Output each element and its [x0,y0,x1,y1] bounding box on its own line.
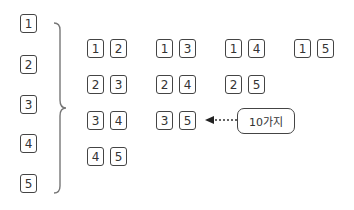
pair-1-2: 1 2 [87,39,130,58]
pair-first: 1 [225,39,242,58]
pair-4-5: 4 5 [87,147,130,166]
pair-1-4: 1 4 [225,39,268,58]
pair-second: 2 [110,39,127,58]
pair-first: 2 [225,75,242,94]
pair-2-3: 2 3 [87,75,130,94]
pair-second: 5 [317,39,334,58]
pair-1-5: 1 5 [294,39,337,58]
pair-second: 4 [179,75,196,94]
pair-second: 5 [248,75,265,94]
single-item-5: 5 [20,174,37,193]
pair-first: 4 [87,147,104,166]
single-item-3: 3 [20,95,37,114]
pair-first: 2 [156,75,173,94]
pair-first: 3 [87,111,104,130]
pair-1-3: 1 3 [156,39,199,58]
pair-second: 5 [110,147,127,166]
single-item-2: 2 [20,55,37,74]
pair-2-4: 2 4 [156,75,199,94]
pair-second: 5 [179,111,196,130]
pair-3-4: 3 4 [87,111,130,130]
pair-3-5: 3 5 [156,111,199,130]
single-item-4: 4 [20,134,37,153]
pair-first: 1 [294,39,311,58]
pair-second: 3 [179,39,196,58]
pair-second: 3 [110,75,127,94]
pair-first: 3 [156,111,173,130]
pair-2-5: 2 5 [225,75,268,94]
dotted-arrow-left-icon [205,115,237,125]
pair-second: 4 [110,111,127,130]
pair-first: 1 [156,39,173,58]
pair-second: 4 [248,39,265,58]
pair-first: 2 [87,75,104,94]
pair-first: 1 [87,39,104,58]
count-callout: 10가지 [237,108,295,134]
single-item-1: 1 [20,14,37,33]
curly-brace-icon [52,22,68,194]
